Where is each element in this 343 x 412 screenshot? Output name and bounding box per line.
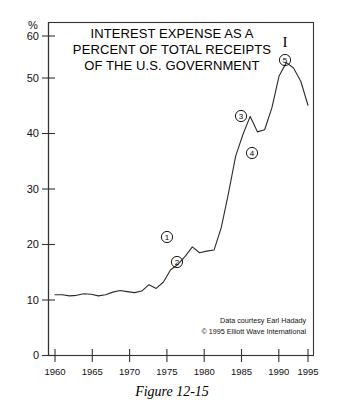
y-tick-label-60: 60 — [27, 30, 39, 42]
y-tick-label-30: 30 — [27, 183, 39, 195]
wave-number-3: 3 — [239, 112, 244, 121]
credit-line-copyright: © 1995 Elliott Wave International — [201, 327, 306, 336]
figure-caption: Figure 12-15 — [134, 384, 209, 399]
wave-number-1: 1 — [165, 233, 170, 242]
chart-title-line-3: OF THE U.S. GOVERNMENT — [84, 58, 259, 73]
data-series-line — [55, 63, 308, 296]
y-tick-label-20: 20 — [27, 238, 39, 250]
wave-label-4: 4 — [246, 147, 257, 158]
x-tick-label-1995: 1995 — [297, 366, 318, 377]
wave-label-1: 1 — [161, 231, 172, 242]
x-tick-label-1990: 1990 — [268, 366, 289, 377]
wave-label-3: 3 — [235, 110, 246, 121]
figure-container: % 0 10 20 30 40 50 60 — [0, 0, 343, 412]
primary-degree-mark: I — [283, 34, 288, 50]
interest-expense-chart: % 0 10 20 30 40 50 60 — [0, 0, 343, 412]
x-tick-label-1965: 1965 — [82, 366, 103, 377]
x-tick-label-1980: 1980 — [194, 366, 215, 377]
credit-line-data-courtesy: Data courtesy Earl Hadady — [220, 316, 306, 325]
wave-label-2: 2 — [171, 256, 182, 267]
x-tick-label-1960: 1960 — [44, 366, 65, 377]
chart-title-line-1: INTEREST EXPENSE AS A — [91, 26, 254, 41]
y-tick-label-10: 10 — [27, 294, 39, 306]
x-tick-label-1970: 1970 — [119, 366, 140, 377]
y-tick-label-40: 40 — [27, 127, 39, 139]
wave-number-5: 5 — [283, 56, 288, 65]
x-tick-label-1985: 1985 — [231, 366, 252, 377]
wave-number-4: 4 — [250, 149, 255, 158]
y-tick-label-50: 50 — [27, 72, 39, 84]
x-tick-label-1975: 1975 — [156, 366, 177, 377]
y-tick-label-0: 0 — [33, 349, 39, 361]
chart-title-line-2: PERCENT OF TOTAL RECEIPTS — [73, 42, 271, 57]
wave-number-2: 2 — [175, 258, 180, 267]
wave-label-5: 5 — [279, 54, 290, 65]
